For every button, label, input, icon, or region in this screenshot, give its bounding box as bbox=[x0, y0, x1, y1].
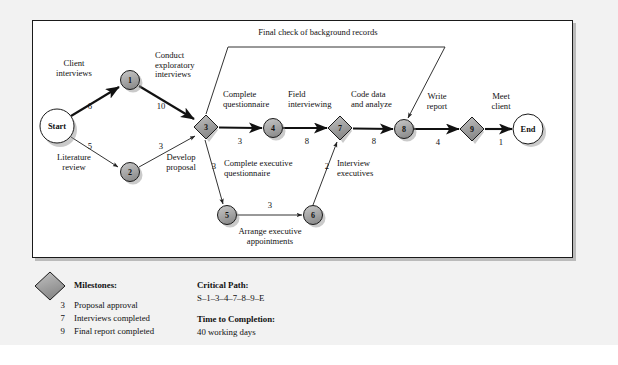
line1: Complete executive bbox=[224, 158, 293, 168]
duration-6-7: 2 bbox=[325, 161, 329, 171]
legend-milestone-label-9: Final report completed bbox=[74, 326, 154, 336]
legend-milestone-num-9: 9 bbox=[55, 326, 65, 336]
line1: Field bbox=[288, 89, 306, 99]
node-9-label: 9 bbox=[470, 125, 474, 134]
screenshot-root: Start 1 2 3 4 5 6 7 8 9 End Client inter… bbox=[0, 0, 618, 365]
legend-time-heading: Time to Completion: bbox=[197, 314, 275, 324]
node-5-label: 5 bbox=[225, 211, 229, 220]
line1: Complete bbox=[223, 89, 256, 99]
legend-milestone-num-3: 3 bbox=[55, 300, 65, 310]
scanned-paper-bottom-margin bbox=[0, 345, 618, 365]
line2: review bbox=[62, 162, 85, 172]
line1: Develop bbox=[166, 152, 195, 162]
diagram-frame bbox=[32, 20, 573, 258]
node-7-label: 7 bbox=[338, 124, 342, 133]
activity-label-arrange-executive-appointments: Arrange executive appointments bbox=[238, 227, 301, 246]
line1: Code data bbox=[351, 89, 386, 99]
legend-time-value: 40 working days bbox=[197, 327, 256, 337]
legend-milestone-num-7: 7 bbox=[55, 313, 65, 323]
node-1-label: 1 bbox=[128, 76, 132, 85]
activity-label-develop-proposal: Develop proposal bbox=[166, 153, 196, 172]
line2: exploratory bbox=[155, 60, 195, 70]
activity-label-final-check-of-background-records: Final check of background records bbox=[258, 28, 377, 38]
legend-critical-path-value: S–1–3–4–7–8–9–E bbox=[197, 293, 264, 303]
line2: questionnaire bbox=[224, 168, 270, 178]
activity-label-client-interviews: Client interviews bbox=[56, 59, 92, 78]
legend-critical-path-heading: Critical Path: bbox=[197, 280, 249, 290]
duration-4-7: 8 bbox=[305, 136, 309, 146]
line2: questionnaire bbox=[223, 99, 269, 109]
node-8-label: 8 bbox=[402, 125, 406, 134]
duration-8-9: 4 bbox=[436, 137, 440, 147]
duration-start-2: 5 bbox=[88, 141, 92, 151]
duration-5-6: 3 bbox=[268, 200, 272, 210]
activity-label-interview-executives: Interview executives bbox=[337, 159, 373, 178]
duration-3-4: 3 bbox=[238, 136, 242, 146]
line2: and analyze bbox=[351, 99, 392, 109]
line2: appointments bbox=[247, 236, 293, 246]
line2: client bbox=[491, 101, 510, 111]
duration-9-end: 1 bbox=[499, 137, 503, 147]
node-end-label: End bbox=[521, 125, 536, 134]
legend-milestones-heading: Milestones: bbox=[74, 280, 117, 290]
activity-label-complete-executive-questionnaire: Complete executive questionnaire bbox=[224, 159, 293, 178]
duration-7-8: 8 bbox=[372, 136, 376, 146]
node-start-label: Start bbox=[48, 122, 66, 131]
activity-label-write-report: Write report bbox=[427, 92, 448, 111]
line1: Write bbox=[427, 91, 446, 101]
line3: interviews bbox=[155, 69, 191, 79]
activity-label-meet-client: Meet client bbox=[491, 92, 510, 111]
line1: Interview bbox=[337, 158, 370, 168]
duration-start-1: 6 bbox=[88, 101, 92, 111]
activity-label-conduct-exploratory-interviews: Conduct exploratory interviews bbox=[155, 51, 195, 80]
line1: Literature bbox=[57, 152, 91, 162]
line2: interviews bbox=[56, 68, 92, 78]
activity-label-field-interviewing: Field interviewing bbox=[288, 90, 331, 109]
line1: Meet bbox=[492, 91, 510, 101]
legend-milestone-label-7: Interviews completed bbox=[74, 313, 150, 323]
line1: Client bbox=[63, 58, 84, 68]
legend-milestone-label-3: Proposal approval bbox=[74, 300, 138, 310]
duration-2-3: 3 bbox=[159, 141, 163, 151]
line2: executives bbox=[337, 168, 373, 178]
activity-label-literature-review: Literature review bbox=[57, 153, 91, 172]
node-2-label: 2 bbox=[128, 168, 132, 177]
line2: report bbox=[427, 101, 448, 111]
node-4-label: 4 bbox=[271, 124, 275, 133]
line2: proposal bbox=[166, 162, 196, 172]
line1: Conduct bbox=[155, 50, 184, 60]
node-6-label: 6 bbox=[311, 211, 315, 220]
activity-label-complete-questionnaire: Complete questionnaire bbox=[223, 90, 269, 109]
activity-label-code-data-and-analyze: Code data and analyze bbox=[351, 90, 392, 109]
line2: interviewing bbox=[288, 99, 331, 109]
duration-1-3: 10 bbox=[157, 101, 166, 111]
node-3-label: 3 bbox=[204, 123, 208, 132]
line1: Arrange executive bbox=[238, 226, 301, 236]
duration-3-5: 3 bbox=[212, 161, 216, 171]
legend: Milestones: 3 Proposal approval 7 Interv… bbox=[32, 268, 592, 348]
